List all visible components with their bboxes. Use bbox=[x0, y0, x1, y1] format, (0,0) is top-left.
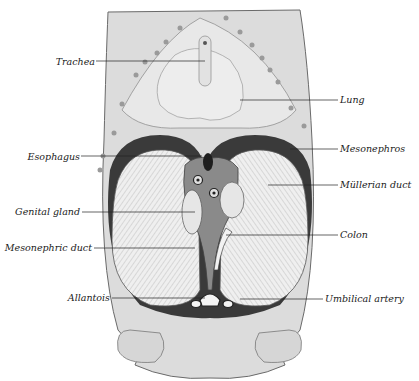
esophagus-shape bbox=[203, 153, 213, 171]
label-trachea: Trachea bbox=[56, 56, 95, 67]
anatomical-figure: Trachea Esophagus Genital gland Mesoneph… bbox=[0, 0, 419, 381]
label-umbilical-artery: Umbilical artery bbox=[325, 293, 404, 304]
right-gonad-shape bbox=[220, 182, 244, 218]
label-colon: Colon bbox=[340, 229, 368, 240]
label-lung: Lung bbox=[340, 94, 365, 105]
right-umbilical-artery-shape bbox=[223, 301, 233, 308]
label-mullerian-duct: Müllerian duct bbox=[340, 179, 411, 190]
label-allantois: Allantois bbox=[68, 292, 110, 303]
label-esophagus: Esophagus bbox=[28, 151, 80, 162]
right-limb-bud bbox=[255, 330, 302, 363]
left-umbilical-artery-shape bbox=[191, 301, 201, 308]
left-limb-bud bbox=[118, 330, 165, 363]
label-mesonephros: Mesonephros bbox=[340, 143, 405, 154]
label-mesonephric-duct: Mesonephric duct bbox=[5, 242, 92, 253]
label-genital-gland: Genital gland bbox=[15, 206, 80, 217]
